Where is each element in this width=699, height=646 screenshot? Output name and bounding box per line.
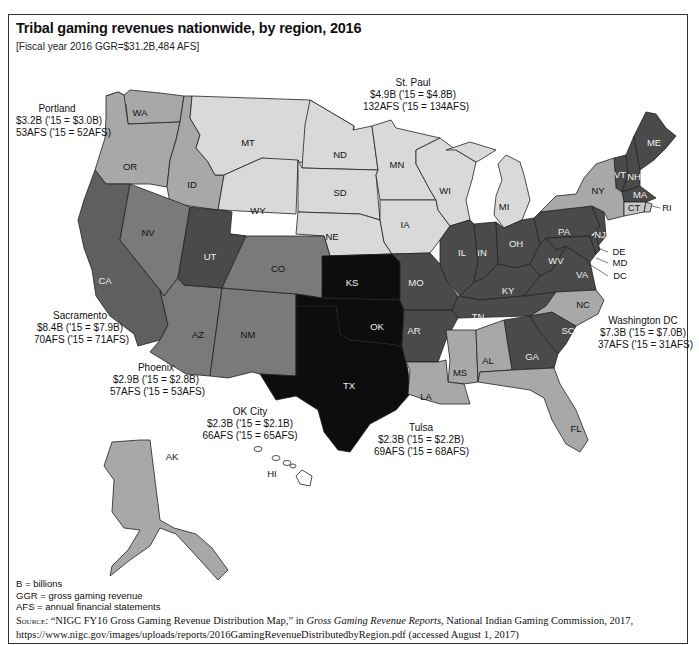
callout-portland-name: Portland	[16, 103, 98, 115]
label-KY: KY	[502, 285, 515, 296]
label-ME: ME	[647, 137, 661, 148]
label-NJ: NJ	[594, 229, 606, 240]
callout-washington-dc: Washington DC $7.3B ('15 = $7.0B) 37AFS …	[598, 315, 688, 351]
label-PA: PA	[558, 226, 571, 237]
callout-portland-ggr: $3.2B ('15 = $3.0B)	[16, 115, 98, 127]
label-NY: NY	[591, 185, 605, 196]
callout-tulsa-afs: 69AFS ('15 = 68AFS)	[374, 446, 468, 458]
state-FL	[478, 368, 588, 452]
label-DC: DC	[613, 270, 627, 281]
callout-tulsa-name: Tulsa	[374, 422, 468, 434]
callout-washington-dc-name: Washington DC	[598, 315, 688, 327]
label-VT: VT	[614, 169, 626, 180]
label-MN: MN	[390, 159, 405, 170]
label-RI: RI	[662, 202, 672, 213]
legend-item-afs: AFS = annual financial statements	[16, 601, 160, 613]
source-url: https://www.nigc.gov/images/uploads/repo…	[16, 628, 681, 642]
state-HI	[254, 447, 312, 487]
callout-phoenix-ggr: $2.9B ('15 = $2.8B)	[110, 374, 202, 386]
callout-washington-dc-ggr: $7.3B ('15 = $7.0B)	[598, 327, 688, 339]
callout-portland: Portland $3.2B ('15 = $3.0B) 53AFS ('15 …	[16, 103, 98, 139]
callout-sacramento-name: Sacramento	[34, 310, 126, 322]
source-quote: “NIGC FY16 Gross Gaming Revenue Distribu…	[51, 615, 307, 626]
label-MA: MA	[633, 189, 648, 200]
source-rest: , National Indian Gaming Commission, 201…	[441, 615, 633, 626]
source-publication: Gross Gaming Revenue Reports	[306, 615, 441, 626]
callout-ok-city-ggr: $2.3B ('15 = $2.1B)	[200, 418, 300, 430]
label-DE: DE	[612, 246, 625, 257]
label-MO: MO	[408, 277, 423, 288]
source-note: Source: “NIGC FY16 Gross Gaming Revenue …	[16, 614, 681, 641]
label-CA: CA	[98, 275, 112, 286]
label-TX: TX	[343, 380, 356, 391]
callout-tulsa-ggr: $2.3B ('15 = $2.2B)	[374, 434, 468, 446]
label-OH: OH	[509, 238, 523, 249]
callout-sacramento: Sacramento $8.4B ('15 = $7.9B) 70AFS ('1…	[34, 310, 126, 346]
callout-sacramento-ggr: $8.4B ('15 = $7.9B)	[34, 322, 126, 334]
label-FL: FL	[570, 423, 581, 434]
label-MI: MI	[499, 201, 510, 212]
label-UT: UT	[204, 251, 217, 262]
label-VA: VA	[576, 269, 589, 280]
label-IL: IL	[458, 247, 466, 258]
label-AZ: AZ	[192, 329, 204, 340]
label-KS: KS	[346, 277, 359, 288]
callout-ok-city: OK City $2.3B ('15 = $2.1B) 66AFS ('15 =…	[200, 406, 300, 442]
state-KS	[322, 254, 400, 300]
callout-ok-city-name: OK City	[200, 406, 300, 418]
label-AL: AL	[482, 355, 494, 366]
label-WA: WA	[133, 107, 149, 118]
label-SD: SD	[333, 187, 346, 198]
callout-st-paul-afs: 132AFS ('15 = 134AFS)	[363, 101, 463, 113]
label-HI: HI	[267, 468, 277, 479]
label-MS: MS	[453, 367, 467, 378]
callout-ok-city-afs: 66AFS ('15 = 65AFS)	[200, 430, 300, 442]
label-NH: NH	[627, 171, 641, 182]
callout-sacramento-afs: 70AFS ('15 = 71AFS)	[34, 334, 126, 346]
callout-st-paul-name: St. Paul	[363, 77, 463, 89]
label-CT: CT	[628, 202, 641, 213]
label-MT: MT	[241, 137, 255, 148]
label-OR: OR	[123, 161, 137, 172]
callout-st-paul: St. Paul $4.9B ('15 = $4.8B) 132AFS ('15…	[363, 77, 463, 113]
label-NM: NM	[241, 329, 256, 340]
callout-tulsa: Tulsa $2.3B ('15 = $2.2B) 69AFS ('15 = 6…	[374, 422, 468, 458]
callout-phoenix-name: Phoenix	[110, 362, 202, 374]
label-IA: IA	[401, 219, 411, 230]
callout-washington-dc-afs: 37AFS ('15 = 31AFS)	[598, 339, 688, 351]
callout-phoenix-afs: 57AFS ('15 = 53AFS)	[110, 386, 202, 398]
legend-item-ggr: GGR = gross gaming revenue	[16, 590, 160, 602]
callout-phoenix: Phoenix $2.9B ('15 = $2.8B) 57AFS ('15 =…	[110, 362, 202, 398]
label-GA: GA	[525, 351, 539, 362]
source-line-1: Source: “NIGC FY16 Gross Gaming Revenue …	[16, 614, 681, 628]
label-SC: SC	[561, 325, 574, 336]
source-label: Source:	[16, 615, 48, 626]
label-AR: AR	[407, 325, 420, 336]
label-TN: TN	[472, 311, 485, 322]
label-WI: WI	[439, 185, 451, 196]
label-OK: OK	[370, 321, 384, 332]
label-NE: NE	[325, 231, 338, 242]
callout-portland-afs: 53AFS ('15 = 52AFS)	[16, 127, 98, 139]
label-NV: NV	[141, 227, 155, 238]
label-IN: IN	[477, 247, 487, 258]
label-WV: WV	[548, 255, 564, 266]
label-MD: MD	[613, 257, 628, 268]
label-NC: NC	[576, 299, 590, 310]
legend-item-billions: B = billions	[16, 578, 160, 590]
label-CO: CO	[271, 263, 285, 274]
callout-st-paul-ggr: $4.9B ('15 = $4.8B)	[363, 89, 463, 101]
label-LA: LA	[420, 391, 432, 402]
label-WY: WY	[250, 205, 266, 216]
abbreviation-legend: B = billions GGR = gross gaming revenue …	[16, 578, 160, 613]
label-AK: AK	[166, 451, 179, 462]
label-ID: ID	[187, 179, 197, 190]
label-ND: ND	[333, 149, 347, 160]
state-MI	[494, 155, 530, 228]
